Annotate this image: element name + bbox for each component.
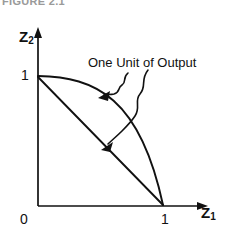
x-axis-label: Z1 <box>201 205 216 220</box>
x-axis-label-subscript: 1 <box>210 211 216 222</box>
x-axis <box>38 202 208 210</box>
y-axis-arrowhead <box>34 27 42 38</box>
annotation-arrow-to-curve <box>98 73 128 101</box>
y-axis-label-base: Z <box>19 28 28 45</box>
y-axis-label-subscript: 2 <box>28 35 34 46</box>
linear-frontier-line <box>38 77 163 205</box>
y-axis <box>34 27 42 206</box>
y-axis-tick-one: 1 <box>21 68 29 82</box>
y-axis-label: Z2 <box>19 29 34 44</box>
squiggle-path-curve <box>104 73 128 95</box>
x-axis-label-base: Z <box>201 204 210 221</box>
x-axis-tick-one: 1 <box>161 212 169 226</box>
squiggle-path-line <box>108 70 148 144</box>
isoquant-diagram <box>0 0 227 239</box>
origin-tick-zero: 0 <box>20 212 28 226</box>
annotation-label-one-unit-of-output: One Unit of Output <box>88 56 196 69</box>
figure-container: FIGURE 2.1 Z2 Z1 1 0 1 <box>0 0 227 239</box>
